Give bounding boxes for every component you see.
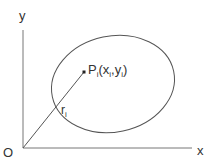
point-coords-open: (x [98,62,109,77]
point-label: Pi(xi,yi) [88,63,127,79]
origin-label: O [3,146,13,159]
region-ellipse [42,24,183,144]
x-axis-label: x [197,144,204,157]
point-coords-mid: ,y [111,62,121,77]
y-axis-label: y [19,9,26,22]
point-marker [83,71,86,74]
radius-vector [23,72,84,148]
point-coords-close: ) [123,62,127,77]
point-label-main: P [88,62,97,77]
diagram-canvas [0,0,216,163]
radius-label: ri [61,104,67,119]
radius-label-sub: i [65,110,67,119]
